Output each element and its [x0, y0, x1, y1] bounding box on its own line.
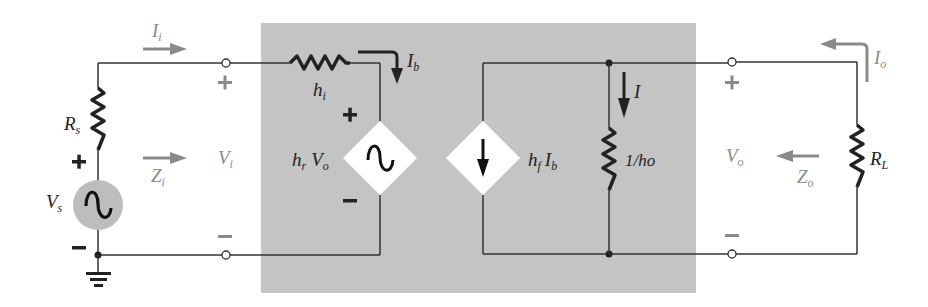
source-resistor-label: Rs	[63, 113, 81, 137]
hybrid-equivalent-circuit: Ii Rs Vs Zi Vi hi Ib hrVo hfIb I 1/ho Vo…	[0, 0, 928, 307]
output-impedance-arrow	[776, 150, 819, 162]
feedback-minus-sign	[343, 199, 357, 203]
output-conductance-label: 1/ho	[625, 151, 655, 170]
input-voltage-label: Vi	[218, 147, 233, 171]
vs-plus-sign	[72, 155, 86, 169]
ground-icon	[86, 272, 111, 287]
input-impedance-arrow	[143, 152, 187, 164]
output-plus-sign	[725, 76, 739, 90]
source-voltage-label: Vs	[46, 191, 63, 215]
input-plus-sign	[218, 76, 232, 90]
load-resistor	[851, 125, 863, 187]
input-current-arrow	[143, 43, 187, 55]
output-impedance-label: Zo	[797, 166, 814, 190]
load-resistor-label: RL	[869, 148, 889, 172]
output-terminal-top	[728, 58, 736, 66]
output-current-label: Io	[873, 47, 886, 71]
input-minus-sign	[218, 235, 232, 238]
input-terminal-top	[222, 59, 230, 67]
output-terminal-bottom	[728, 250, 736, 258]
output-voltage-label: Vo	[726, 145, 744, 169]
input-current-label: Ii	[151, 20, 162, 44]
input-terminal-bottom	[222, 251, 230, 259]
vs-minus-sign	[72, 246, 86, 250]
rs-resistor	[92, 88, 104, 150]
input-impedance-label: Zi	[151, 165, 165, 189]
output-current-arrow	[820, 38, 867, 82]
output-minus-sign	[725, 234, 739, 237]
